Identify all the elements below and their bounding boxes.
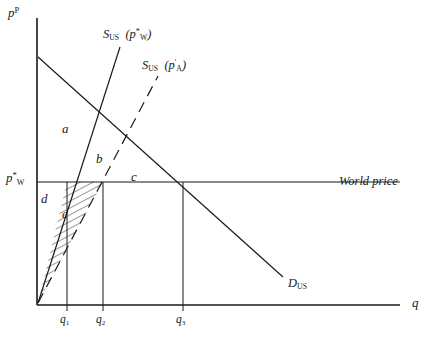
tick-label-q1: q1	[60, 314, 69, 326]
supply-curve-solid	[38, 47, 120, 303]
diagram-canvas	[0, 0, 432, 341]
demand-curve	[38, 57, 283, 277]
tick-label-q3: q3	[176, 314, 185, 326]
region-c-label: c	[131, 170, 137, 183]
tick-label-q2: q2	[96, 314, 105, 326]
world-price-label: World price	[339, 175, 398, 188]
y-axis-label: pP	[8, 6, 19, 19]
supply-curve-solid-label: SUS (p*W)	[103, 28, 151, 41]
x-axis-label: q	[412, 296, 419, 309]
demand-curve-label: DUS	[288, 277, 307, 290]
world-price-axis-label: p*W	[6, 171, 24, 184]
region-d-label: d	[41, 192, 48, 205]
supply-curve-dashed-label: SUS (p'A)	[142, 59, 186, 72]
region-b-label: b	[96, 152, 103, 165]
region-a-label: a	[62, 122, 69, 135]
region-e-label: e	[62, 207, 68, 220]
economics-diagram: pP q p*W World price SUS (p*W) SUS (p'A)…	[0, 0, 432, 341]
supply-curve-dashed	[38, 76, 158, 303]
